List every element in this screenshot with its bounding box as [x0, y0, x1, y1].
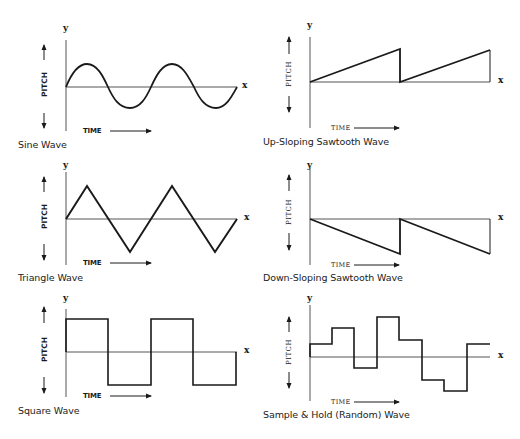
time-label: TIME	[83, 259, 101, 267]
x-axis-label: x	[498, 212, 503, 222]
caption-sine: Sine Wave	[18, 139, 67, 150]
panel-triangle	[44, 172, 237, 265]
sample-hold-wave-line	[310, 317, 490, 391]
down-sawtooth-wave-line	[310, 219, 490, 254]
pitch-label: PITCH	[285, 54, 293, 94]
caption-square: Square Wave	[18, 405, 79, 416]
time-label: TIME	[83, 392, 101, 400]
y-axis-label: y	[63, 160, 68, 170]
pitch-label: PITCH	[40, 65, 49, 105]
time-label: TIME	[331, 398, 351, 406]
x-axis-label: x	[244, 345, 249, 355]
pitch-label: PITCH	[285, 332, 293, 372]
time-label: TIME	[331, 261, 351, 269]
y-axis-label: y	[307, 293, 312, 303]
x-axis-label: x	[498, 75, 503, 85]
pitch-label: PITCH	[40, 330, 49, 370]
panel-up-sawtooth	[289, 37, 490, 128]
pitch-label: PITCH	[40, 197, 49, 237]
x-axis-label: x	[244, 212, 249, 222]
panel-down-sawtooth	[289, 168, 490, 265]
x-axis-label: x	[498, 350, 503, 360]
caption-up-sawtooth: Up-Sloping Sawtooth Wave	[263, 136, 389, 147]
y-axis-label: y	[307, 160, 312, 170]
y-axis-label: y	[63, 23, 68, 33]
panel-square	[44, 307, 237, 397]
time-label: TIME	[83, 127, 101, 135]
panel-sine	[44, 40, 237, 131]
caption-triangle: Triangle Wave	[18, 272, 83, 283]
y-axis-label: y	[307, 20, 312, 30]
waveform-diagram	[0, 0, 520, 439]
y-axis-label: y	[63, 293, 68, 303]
up-sawtooth-wave-line	[310, 49, 490, 82]
caption-sample-hold: Sample & Hold (Random) Wave	[263, 409, 410, 420]
panel-sample-hold	[289, 305, 490, 402]
caption-down-sawtooth: Down-Sloping Sawtooth Wave	[263, 272, 403, 283]
x-axis-label: x	[242, 80, 247, 90]
pitch-label: PITCH	[285, 192, 293, 232]
sine-wave-curve	[66, 64, 237, 108]
time-label: TIME	[331, 124, 351, 132]
